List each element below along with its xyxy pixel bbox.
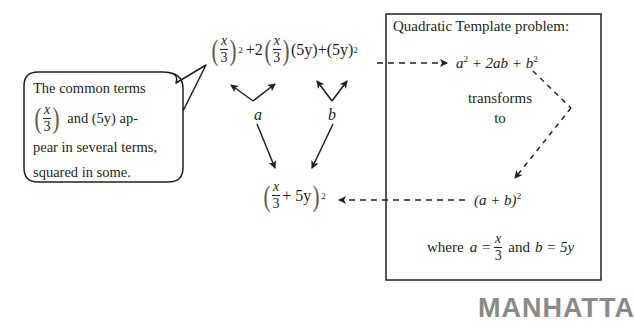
callout-text: The common terms ( x 3 ) and (5y) ap- pe… <box>33 76 183 185</box>
manhattan-logo: MANHATTA <box>478 293 635 324</box>
callout-line-4: squared in some. <box>33 160 183 185</box>
paren-left: ( <box>35 103 42 133</box>
callout-line-3: pear in several terms, <box>33 135 183 160</box>
factored-expression: (a + b)2 <box>474 191 521 209</box>
to-label: to <box>440 110 560 127</box>
callout-fraction: x 3 <box>43 103 51 134</box>
expansion-expression: a2 + 2ab + b2 <box>456 54 538 72</box>
label-a: a <box>254 106 262 124</box>
where-definition: where a = x 3 and b = 5y <box>427 232 574 263</box>
bottom-expression: ( x 3 + 5y ) 2 <box>262 180 326 211</box>
callout-line-1: The common terms <box>33 76 183 101</box>
paren-right: ) <box>53 103 60 133</box>
transforms-label: transforms <box>440 90 560 107</box>
label-b: b <box>328 106 336 124</box>
template-box-title: Quadratic Template problem: <box>393 18 569 35</box>
callout-line-2: ( x 3 ) and (5y) ap- <box>33 101 183 135</box>
top-expression: ( x 3 ) 2 + 2 ( x 3 ) (5y) + (5y) 2 <box>210 34 358 65</box>
